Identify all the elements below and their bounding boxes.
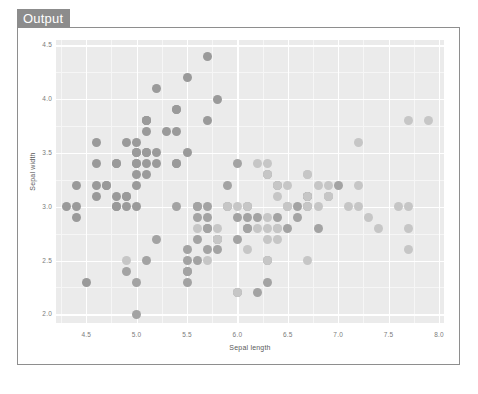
scatter-point [142,148,151,157]
scatter-point [303,202,312,211]
x-tick-label: 7.0 [324,331,352,338]
scatter-plot-figure: 4.54.03.53.02.52.0 4.55.05.56.06.57.07.5… [18,28,461,366]
scatter-point [82,278,91,287]
scatter-point [152,148,161,157]
scatter-point [132,181,141,190]
scatter-point [253,159,262,168]
gridline-major-vertical [439,40,440,323]
scatter-point [404,224,413,233]
x-tick-label: 6.5 [274,331,302,338]
scatter-point [263,213,272,222]
scatter-point [283,202,292,211]
scatter-point [203,116,212,125]
scatter-point [314,181,323,190]
scatter-point [92,181,101,190]
x-tick-label: 4.5 [72,331,100,338]
x-tick-label: 8.0 [425,331,453,338]
y-tick-label: 2.0 [28,310,52,317]
scatter-point [142,127,151,136]
scatter-point [293,202,302,211]
scatter-point [213,235,222,244]
gridline-minor-horizontal [56,180,444,181]
y-tick-label: 2.5 [28,257,52,264]
scatter-point [122,192,131,201]
gridline-major-horizontal [56,45,444,46]
scatter-point [263,170,272,179]
scatter-point [132,310,141,319]
scatter-point [132,138,141,147]
scatter-point [92,192,101,201]
scatter-point [203,256,212,265]
scatter-point [364,213,373,222]
gridline-minor-vertical [212,40,213,323]
gridline-major-horizontal [56,261,444,262]
scatter-point [122,138,131,147]
scatter-point [424,116,433,125]
scatter-point [152,84,161,93]
scatter-point [193,224,202,233]
scatter-point [172,105,181,114]
scatter-point [62,202,71,211]
scatter-point [303,170,312,179]
scatter-point [283,224,292,233]
scatter-point [72,181,81,190]
plot-panel [56,40,444,323]
scatter-point [233,202,242,211]
x-axis-title: Sepal length [56,344,444,351]
x-tick-label: 5.5 [173,331,201,338]
scatter-point [324,181,333,190]
scatter-point [233,159,242,168]
scatter-point [243,213,252,222]
scatter-point [172,127,181,136]
scatter-point [233,235,242,244]
scatter-point [203,202,212,211]
scatter-point [263,256,272,265]
scatter-point [203,245,212,254]
scatter-point [253,213,262,222]
scatter-point [263,159,272,168]
output-panel: 4.54.03.53.02.52.0 4.55.05.56.06.57.07.5… [17,27,460,365]
scatter-point [183,256,192,265]
scatter-point [243,224,252,233]
scatter-point [263,278,272,287]
scatter-point [112,192,121,201]
scatter-point [142,159,151,168]
scatter-point [72,213,81,222]
scatter-point [183,267,192,276]
scatter-point [203,224,212,233]
scatter-point [314,202,323,211]
scatter-point [344,202,353,211]
scatter-point [112,159,121,168]
scatter-point [132,202,141,211]
gridline-major-vertical [237,40,238,323]
scatter-point [334,181,343,190]
scatter-point [404,202,413,211]
gridline-minor-vertical [162,40,163,323]
scatter-point [172,202,181,211]
scatter-point [233,288,242,297]
gridline-major-vertical [389,40,390,323]
scatter-point [303,192,312,201]
scatter-point [122,202,131,211]
scatter-point [193,202,202,211]
scatter-point [354,202,363,211]
gridline-minor-horizontal [56,126,444,127]
scatter-point [183,148,192,157]
scatter-point [273,235,282,244]
scatter-point [354,181,363,190]
scatter-point [203,52,212,61]
scatter-point [172,159,181,168]
scatter-point [293,213,302,222]
y-tick-label: 4.5 [28,41,52,48]
output-tab[interactable]: Output [17,9,70,28]
gridline-major-horizontal [56,153,444,154]
scatter-point [152,159,161,168]
scatter-point [152,235,161,244]
scatter-point [243,202,252,211]
scatter-point [162,127,171,136]
scatter-point [404,245,413,254]
scatter-point [314,224,323,233]
gridline-minor-vertical [61,40,62,323]
scatter-point [243,245,252,254]
gridline-minor-vertical [414,40,415,323]
